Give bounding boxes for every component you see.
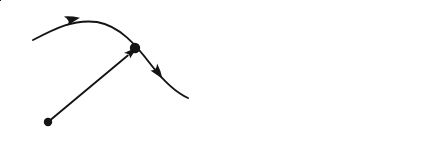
position-vector-shaft	[48, 56, 128, 122]
figure-root	[0, 0, 448, 164]
trajectory-curve-a	[33, 21, 188, 98]
panel-a	[33, 16, 188, 126]
origin-dot-a	[44, 118, 52, 126]
figure-canvas	[0, 0, 448, 164]
trajectory-point-dot-a	[130, 43, 140, 53]
